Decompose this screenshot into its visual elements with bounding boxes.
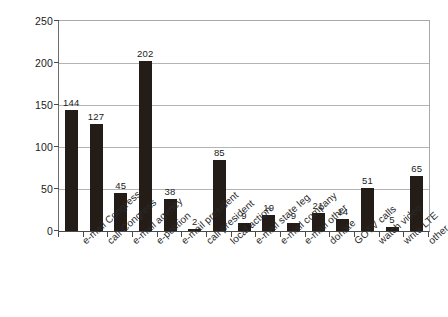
bar-value-label: 51 — [362, 175, 373, 186]
x-tick-label: e-mail Congress — [80, 238, 87, 246]
x-tick-label: e-mail agency — [130, 238, 137, 246]
bar-group[interactable]: 65 — [404, 21, 429, 231]
x-tick-label: e-mail president — [179, 238, 186, 246]
y-tick-label: 100 — [35, 141, 59, 153]
x-tick-label: e-mail state leg — [253, 238, 260, 246]
bar-group[interactable]: 5 — [380, 21, 405, 231]
bar-value-label: 127 — [88, 111, 104, 122]
bar-series: 14412745202382859199211451565 — [59, 21, 429, 231]
bar-value-label: 85 — [214, 147, 225, 158]
x-tick-label: e-mail other — [302, 238, 309, 246]
y-tick-label: 200 — [35, 57, 59, 69]
chart-figure: 050100150200250 144127452023828591992114… — [0, 0, 448, 317]
bar-group[interactable]: 144 — [59, 21, 84, 231]
x-tick-label: call president — [204, 238, 211, 246]
bar[interactable]: 144 — [65, 110, 78, 231]
y-tick-label: 150 — [35, 99, 59, 111]
x-tick-label: e-petition — [154, 238, 161, 246]
x-tick-label: GOTV calls — [352, 238, 359, 246]
x-tick-label: write LTE — [401, 238, 408, 246]
bar-group[interactable]: 19 — [256, 21, 281, 231]
x-tick-label: donate — [327, 238, 334, 246]
bar[interactable]: 127 — [90, 124, 103, 231]
x-tick-label: other — [426, 238, 433, 246]
bar-value-label: 144 — [63, 97, 79, 108]
bar-group[interactable]: 127 — [84, 21, 109, 231]
bar-group[interactable]: 51 — [355, 21, 380, 231]
bar-value-label: 45 — [115, 180, 126, 191]
y-tick-label: 50 — [41, 183, 59, 195]
x-tick-label: watch video — [376, 238, 383, 246]
x-tick-mark — [58, 232, 59, 237]
bar-value-label: 202 — [137, 48, 153, 59]
bar-group[interactable]: 2 — [182, 21, 207, 231]
x-tick-label: local action — [228, 238, 235, 246]
y-tick-label: 250 — [35, 15, 59, 27]
bar-value-label: 38 — [165, 186, 176, 197]
x-tick-label: e-mail company — [278, 238, 285, 246]
x-tick-label: call Congress — [105, 238, 112, 246]
x-axis-labels: e-mail Congresscall Congresse-mail agenc… — [58, 238, 430, 317]
bar-value-label: 65 — [411, 163, 422, 174]
